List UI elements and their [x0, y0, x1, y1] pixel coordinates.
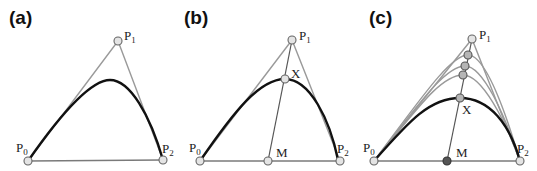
shoulder-point-x — [456, 94, 464, 102]
label-m: M — [276, 145, 288, 160]
label-p0: P0 — [363, 140, 375, 157]
panel-b-label: (b) — [184, 7, 208, 28]
label-p1: P1 — [479, 27, 491, 44]
control-point-p1 — [114, 37, 122, 45]
midpoint-m — [264, 157, 272, 165]
control-point-p0 — [370, 157, 378, 165]
label-p2: P2 — [162, 141, 174, 158]
median-line — [268, 40, 292, 161]
conic-construction-diagram: (a) P0 P1 P2 (b) P0 P1 P2 X M (c) — [0, 0, 537, 171]
label-x: X — [291, 66, 301, 81]
label-m: M — [456, 145, 468, 160]
control-point-p2 — [336, 157, 344, 165]
label-p0: P0 — [189, 140, 201, 157]
shoulder-point-2 — [461, 62, 469, 70]
control-point-p0 — [24, 157, 32, 165]
panel-a: (a) P0 P1 P2 — [9, 7, 174, 165]
control-polygon — [28, 41, 163, 161]
conic-curve — [28, 80, 163, 161]
panel-b: (b) P0 P1 P2 X M — [184, 7, 349, 165]
control-polygon — [200, 40, 340, 161]
conic-curve — [374, 98, 520, 161]
shoulder-point-3 — [459, 71, 467, 79]
control-point-p2 — [159, 156, 167, 164]
control-point-p1 — [468, 35, 476, 43]
label-p2: P2 — [337, 141, 349, 158]
base-edge — [28, 160, 163, 161]
panel-c: (c) P0 P1 P2 X M — [363, 7, 529, 165]
shoulder-point-1 — [464, 51, 472, 59]
midpoint-m — [443, 157, 451, 165]
label-p1: P1 — [124, 28, 136, 45]
panel-a-label: (a) — [9, 7, 32, 28]
panel-c-label: (c) — [369, 7, 392, 28]
control-point-p0 — [196, 157, 204, 165]
label-x: X — [462, 102, 472, 117]
control-point-p1 — [288, 36, 296, 44]
label-p2: P2 — [517, 141, 529, 158]
label-p1: P1 — [299, 28, 311, 45]
label-p0: P0 — [16, 140, 28, 157]
shoulder-point-x — [281, 75, 289, 83]
conic-curve — [200, 79, 338, 161]
control-point-p2 — [516, 157, 524, 165]
